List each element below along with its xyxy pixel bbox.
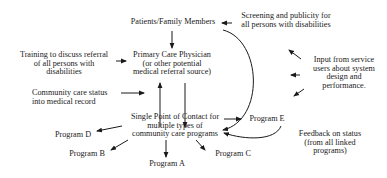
arrow-spoc-to-program-c (196, 140, 205, 150)
annotation-community-care-status: Community care status into medical recor… (32, 89, 116, 106)
arrow-input-1 (289, 50, 301, 59)
node-program-b: Program B (64, 150, 110, 159)
annotation-input-from-users: Input from service users about system de… (306, 56, 382, 90)
node-patients-family: Patients/Family Members (118, 18, 228, 27)
node-program-c: Program C (210, 150, 256, 159)
annotation-training: Training to discuss referral of all pers… (14, 51, 114, 77)
node-primary-care-physician: Primary Care Physician (or other potenti… (124, 51, 220, 77)
node-program-e: Program E (244, 115, 290, 124)
node-program-d: Program D (50, 131, 96, 140)
annotation-feedback-status: Feedback on status (from all linked prog… (292, 130, 368, 156)
arrow-feedback-curve (224, 126, 281, 138)
node-single-point-of-contact: Single Point of Contact for multiple typ… (122, 113, 228, 139)
annotation-screening-publicity: Screening and publicity for all persons … (236, 12, 336, 29)
arrow-spoc-to-program-d (97, 126, 122, 131)
arrow-spoc-to-program-b (111, 140, 128, 150)
node-program-a: Program A (144, 160, 190, 169)
arrow-input-3 (294, 89, 304, 96)
